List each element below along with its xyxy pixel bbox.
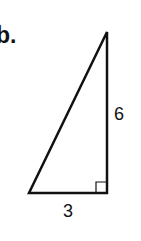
- horizontal-side-length: 3: [63, 201, 73, 222]
- right-angle-marker: [96, 182, 107, 193]
- triangle: [29, 32, 107, 193]
- vertical-side-length: 6: [114, 104, 124, 125]
